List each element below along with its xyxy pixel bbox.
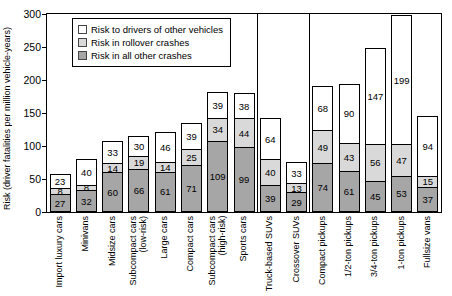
bar-value-label: 199 <box>394 76 410 85</box>
bar-value-label: 39 <box>186 132 197 141</box>
bar: 461461 <box>155 132 176 212</box>
y-tick-label: 50 <box>11 174 41 185</box>
x-tick-label: 3/4-ton pickups <box>369 216 379 277</box>
bar-value-label: 99 <box>239 175 250 184</box>
bar-segment: 37 <box>418 187 437 211</box>
bar: 904361 <box>339 84 360 212</box>
bar: 331329 <box>286 162 307 212</box>
x-tick-label: Large cars <box>159 216 169 259</box>
bar-value-label: 61 <box>344 187 355 196</box>
legend-swatch <box>78 38 87 47</box>
bar-segment: 109 <box>208 141 227 211</box>
bar: 3934109 <box>207 92 228 212</box>
bar-value-label: 109 <box>210 172 226 181</box>
bar: 384499 <box>234 93 255 212</box>
bar: 392571 <box>181 123 202 212</box>
bar-segment: 147 <box>366 49 385 144</box>
bar-value-label: 68 <box>318 104 329 113</box>
bar-segment: 60 <box>103 172 122 211</box>
bar-segment: 44 <box>235 118 254 147</box>
x-tick-label: Sports cars <box>238 216 248 262</box>
bar-segment: 94 <box>418 117 437 176</box>
bar-segment: 45 <box>366 181 385 211</box>
bar-value-label: 29 <box>291 198 302 207</box>
bar-value-label: 60 <box>107 188 118 197</box>
x-axis: Import luxury carsMinivansMidsize carsSu… <box>0 216 452 296</box>
bar: 40832 <box>76 159 97 212</box>
bar-segment: 56 <box>366 144 385 181</box>
legend: Risk to drivers of other vehiclesRisk in… <box>72 18 231 67</box>
x-tick-label: Midsize cars <box>107 216 117 266</box>
x-tick-label: Crossover SUVs <box>291 216 301 283</box>
bar-value-label: 71 <box>186 184 197 193</box>
bar-segment: 32 <box>77 190 96 211</box>
bar: 301966 <box>128 136 149 212</box>
bar-value-label: 74 <box>318 183 329 192</box>
bar-value-label: 66 <box>134 186 145 195</box>
bar: 684974 <box>312 86 333 212</box>
bar-segment: 49 <box>313 130 332 162</box>
bar-segment: 199 <box>392 16 411 144</box>
bar-segment: 33 <box>287 163 306 183</box>
bar-segment: 46 <box>156 133 175 162</box>
bar-value-label: 40 <box>265 168 276 177</box>
bar-segment: 34 <box>208 118 227 141</box>
bar-value-label: 30 <box>134 142 145 151</box>
vehicle-risk-stacked-bar-chart: Risk (driver fatalities per million vehi… <box>0 0 452 296</box>
x-tick-label: Truck-based SUVs <box>264 216 274 291</box>
bar-value-label: 147 <box>367 92 383 101</box>
bar-value-label: 33 <box>291 169 302 178</box>
bar-value-label: 64 <box>265 135 276 144</box>
bar-value-label: 90 <box>344 109 355 118</box>
bar-segment: 27 <box>51 194 70 211</box>
bar-segment: 14 <box>156 162 175 172</box>
x-tick-label: 1-ton pickups <box>396 216 406 270</box>
bar-value-label: 15 <box>423 177 434 186</box>
bar-value-label: 46 <box>160 143 171 152</box>
bar-segment: 64 <box>261 119 280 159</box>
bar-value-label: 32 <box>81 197 92 206</box>
bar-segment: 61 <box>340 171 359 211</box>
bar-value-label: 37 <box>423 195 434 204</box>
bar-segment: 25 <box>182 149 201 166</box>
legend-swatch <box>78 25 87 34</box>
bar-value-label: 61 <box>160 187 171 196</box>
bar-value-label: 94 <box>423 142 434 151</box>
bar-value-label: 39 <box>212 101 223 110</box>
y-tick-label: 250 <box>11 42 41 53</box>
bar-segment: 39 <box>261 185 280 211</box>
group-divider <box>257 14 258 212</box>
bar-value-label: 45 <box>370 192 381 201</box>
group-divider <box>309 14 310 212</box>
bar-value-label: 14 <box>160 163 171 172</box>
y-tick-label: 200 <box>11 75 41 86</box>
bar-segment: 99 <box>235 147 254 211</box>
bar-value-label: 38 <box>239 102 250 111</box>
legend-swatch <box>78 51 87 60</box>
bar-segment: 71 <box>182 165 201 211</box>
x-tick-label: Compact cars <box>185 216 195 272</box>
bar-value-label: 33 <box>107 148 118 157</box>
legend-label: Risk to drivers of other vehicles <box>91 23 223 36</box>
bar-value-label: 56 <box>370 158 381 167</box>
x-tick-label: Compact pickups <box>317 216 327 285</box>
bar: 1994753 <box>391 15 412 212</box>
bar-segment: 39 <box>182 124 201 149</box>
bar-value-label: 23 <box>55 177 66 186</box>
bar-segment: 40 <box>77 160 96 185</box>
bar-segment: 33 <box>103 142 122 163</box>
bar-segment: 43 <box>340 143 359 171</box>
legend-label: Risk in all other crashes <box>91 49 192 62</box>
bar-value-label: 14 <box>107 164 118 173</box>
bar-value-label: 19 <box>134 158 145 167</box>
bar-value-label: 27 <box>55 199 66 208</box>
bar-segment: 40 <box>261 159 280 185</box>
bar-value-label: 43 <box>344 153 355 162</box>
bar-segment: 13 <box>287 183 306 192</box>
x-tick-label: Minivans <box>80 216 90 252</box>
x-tick-label: Import luxury cars <box>54 216 64 288</box>
legend-entry: Risk in all other crashes <box>78 49 223 62</box>
x-tick-label: Subcompact cars (low-risk) <box>128 216 148 286</box>
y-tick-label: 150 <box>11 108 41 119</box>
bar-value-label: 34 <box>212 125 223 134</box>
